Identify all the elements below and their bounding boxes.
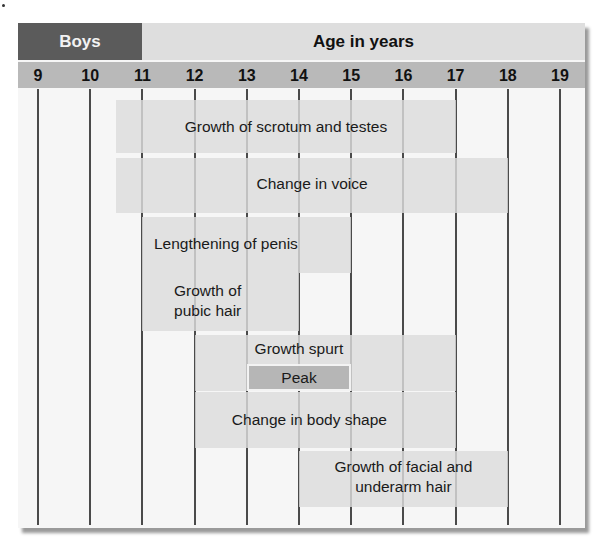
tick-label: 14 <box>279 62 319 88</box>
bar-label: Growth spurt <box>221 339 378 359</box>
tick-label: 9 <box>18 62 58 88</box>
bar-label: Change in body shape <box>205 410 414 430</box>
title-band: Boys Age in years <box>18 23 585 60</box>
stray-mark <box>2 4 5 7</box>
tick-label: 15 <box>331 62 371 88</box>
bar-label: Change in voice <box>116 174 508 194</box>
tick-label: 16 <box>383 62 423 88</box>
tick-label: 18 <box>488 62 528 88</box>
bar-label: Growth of pubic hair <box>142 281 273 321</box>
tick-label: 10 <box>70 62 110 88</box>
gridline <box>559 89 561 525</box>
gridline <box>89 89 91 525</box>
group-header: Boys <box>18 23 142 60</box>
gridline <box>37 89 39 525</box>
tick-label: 17 <box>436 62 476 88</box>
axis-title: Age in years <box>142 23 585 60</box>
tick-band: 910111213141516171819 <box>18 62 585 88</box>
puberty-timeline-chart: Boys Age in years 910111213141516171819 … <box>18 23 585 528</box>
tick-label: 19 <box>540 62 580 88</box>
tick-label: 11 <box>122 62 162 88</box>
bar-label: Lengthening of penis <box>142 234 309 254</box>
tick-label: 12 <box>175 62 215 88</box>
tick-label: 13 <box>227 62 267 88</box>
bar-label: Peak <box>247 368 351 388</box>
bar-label: Growth of facial and underarm hair <box>309 457 497 497</box>
bar-label: Growth of scrotum and testes <box>116 117 455 137</box>
